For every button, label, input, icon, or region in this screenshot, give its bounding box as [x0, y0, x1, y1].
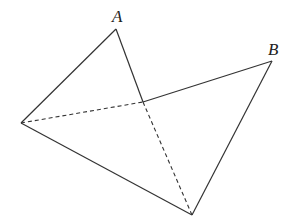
edge-L-D	[21, 123, 192, 215]
edge-M-B	[143, 61, 272, 102]
label-A: A	[111, 7, 123, 26]
edge-L-A	[21, 29, 116, 123]
edge-A-M	[116, 29, 143, 102]
label-B: B	[268, 40, 279, 59]
geometry-diagram: A B	[0, 0, 298, 223]
dashed-edge-M-D	[143, 102, 192, 215]
edge-B-D	[192, 61, 272, 215]
